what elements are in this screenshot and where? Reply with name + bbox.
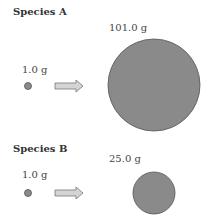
species-b-initial-circle <box>25 190 32 197</box>
species-a-arrow-icon <box>55 80 83 92</box>
species-b-arrow-icon <box>55 187 83 199</box>
species-b-final-circle <box>133 172 175 214</box>
species-a-initial-circle <box>25 83 32 90</box>
species-a-final-circle <box>108 39 200 131</box>
growth-diagram <box>0 0 211 221</box>
